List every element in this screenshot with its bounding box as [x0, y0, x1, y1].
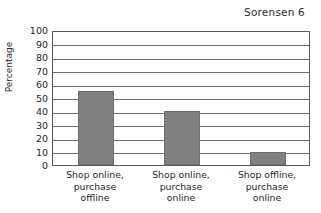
gridline [53, 72, 309, 73]
bar [250, 152, 286, 166]
bar [78, 91, 114, 165]
y-tick-label: 10 [22, 148, 48, 158]
y-tick-label: 70 [22, 67, 48, 77]
gridline [53, 45, 309, 46]
y-tick-label: 80 [22, 53, 48, 63]
bar-chart: Percentage 1009080706050403020100 Shop o… [0, 0, 321, 213]
y-tick-label: 20 [22, 134, 48, 144]
y-tick-label: 0 [22, 161, 48, 171]
category-label: Shop offline, purchase online [224, 169, 310, 204]
plot-area [52, 31, 310, 166]
category-label: Shop online, purchase online [138, 169, 224, 204]
y-tick-label: 40 [22, 107, 48, 117]
y-tick-label: 90 [22, 40, 48, 50]
gridline [53, 59, 309, 60]
y-tick-label: 50 [22, 94, 48, 104]
y-axis-title: Percentage [4, 60, 14, 74]
y-axis-tick-labels: 1009080706050403020100 [18, 31, 48, 166]
y-tick-label: 60 [22, 80, 48, 90]
y-tick-label: 100 [22, 26, 48, 36]
gridline [53, 86, 309, 87]
y-tick-label: 30 [22, 121, 48, 131]
y-axis-title-label: Percentage [4, 17, 14, 117]
bar [164, 111, 200, 165]
category-label: Shop online, purchase offline [52, 169, 138, 204]
